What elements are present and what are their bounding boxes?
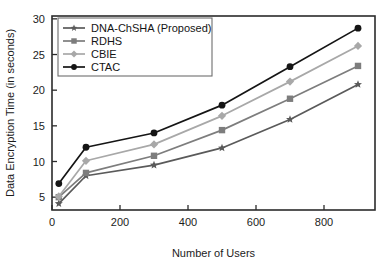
y-tick-label-5: 5 [39, 191, 45, 203]
series-rdhs [56, 63, 362, 201]
y-tick-label-20: 20 [33, 84, 45, 96]
y-tick-label-10: 10 [33, 156, 45, 168]
chart-figure: 510152025300200400600800Number of UsersD… [0, 0, 388, 272]
legend-label: CBIE [91, 48, 117, 60]
x-tick-label-800: 800 [315, 216, 333, 228]
legend-label: RDHS [91, 35, 122, 47]
y-tick-label-15: 15 [33, 120, 45, 132]
y-axis-title: Data Encryption Time (in seconds) [4, 29, 16, 197]
x-tick-label-600: 600 [247, 216, 265, 228]
x-axis-title: Number of Users [172, 247, 256, 259]
legend-label: CTAC [91, 61, 120, 73]
series-line [59, 66, 358, 197]
x-tick-label-0: 0 [49, 216, 55, 228]
x-tick-label-400: 400 [179, 216, 197, 228]
x-tick-label-200: 200 [111, 216, 129, 228]
y-tick-label-25: 25 [33, 49, 45, 61]
legend-label: DNA-ChSHA (Proposed) [91, 22, 211, 34]
line-chart: 510152025300200400600800Number of UsersD… [0, 0, 388, 272]
y-tick-label-30: 30 [33, 13, 45, 25]
